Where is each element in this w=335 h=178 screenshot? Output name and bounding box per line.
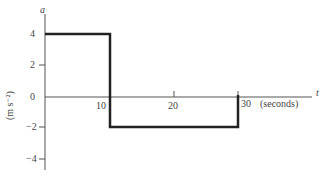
y-axis-units: (m s⁻²)	[4, 91, 15, 120]
y-axis-name: a	[40, 4, 45, 15]
ytick-2: 2	[30, 59, 35, 70]
xtick-10: 10	[96, 100, 106, 111]
chart-canvas	[0, 0, 335, 178]
ytick-4: 4	[30, 28, 35, 39]
xtick-30: 30	[241, 98, 251, 109]
ytick-0: 0	[30, 91, 35, 102]
ytick-m2: −2	[26, 121, 37, 132]
ytick-m4: −4	[26, 153, 37, 164]
x-axis-name: t	[316, 87, 319, 98]
acceleration-line	[45, 34, 238, 127]
x-axis-units: (seconds)	[260, 98, 298, 109]
xtick-20: 20	[168, 100, 178, 111]
